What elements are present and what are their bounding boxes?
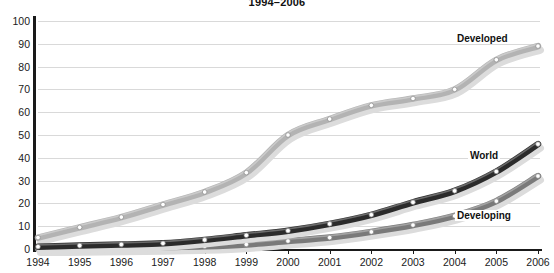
data-point-marker bbox=[202, 238, 207, 243]
data-point-marker bbox=[411, 223, 416, 228]
data-point-marker bbox=[369, 103, 374, 108]
series-world bbox=[36, 142, 541, 251]
data-point-marker bbox=[452, 189, 457, 194]
data-point-marker bbox=[411, 200, 416, 205]
series-label-developing: Developing bbox=[455, 210, 513, 221]
data-point-marker bbox=[202, 190, 207, 195]
data-point-marker bbox=[286, 239, 291, 244]
data-point-marker bbox=[327, 222, 332, 227]
data-point-marker bbox=[161, 202, 166, 207]
series-label-world: World bbox=[468, 150, 500, 161]
data-point-marker bbox=[36, 235, 41, 240]
data-point-marker bbox=[327, 117, 332, 122]
series-label-developed: Developed bbox=[455, 33, 510, 44]
data-point-marker bbox=[536, 174, 541, 179]
data-point-marker bbox=[119, 242, 124, 247]
data-point-marker bbox=[536, 142, 541, 147]
data-point-marker bbox=[411, 96, 416, 101]
data-point-marker bbox=[494, 199, 499, 204]
data-point-marker bbox=[244, 233, 249, 238]
data-point-marker bbox=[77, 243, 82, 248]
data-point-marker bbox=[536, 44, 541, 49]
data-point-marker bbox=[494, 57, 499, 62]
data-point-marker bbox=[119, 215, 124, 220]
data-point-marker bbox=[36, 244, 41, 249]
data-point-marker bbox=[77, 225, 82, 230]
chart-root: 1994–2006 0102030405060708090100 1994199… bbox=[0, 0, 554, 273]
data-point-marker bbox=[244, 170, 249, 175]
data-point-marker bbox=[369, 230, 374, 235]
data-point-marker bbox=[161, 241, 166, 246]
data-point-marker bbox=[286, 228, 291, 233]
data-point-marker bbox=[369, 213, 374, 218]
data-point-marker bbox=[494, 169, 499, 174]
data-point-marker bbox=[286, 133, 291, 138]
data-point-marker bbox=[452, 87, 457, 92]
series-ribbon-shadow bbox=[41, 148, 541, 251]
data-point-marker bbox=[327, 235, 332, 240]
